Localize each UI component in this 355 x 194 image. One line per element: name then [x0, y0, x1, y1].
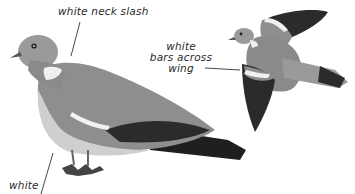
flying-pigeon: [228, 10, 348, 132]
bird-illustration-diagram: white neck slash white bars across wing …: [0, 0, 355, 194]
label-white-neck-slash: white neck slash: [58, 6, 149, 17]
neck-leader-line: [71, 22, 80, 56]
pigeon-illustrations: [0, 0, 355, 194]
label-line: wing: [148, 63, 214, 74]
label-white-bars-across-wing: white bars across wing: [148, 41, 214, 74]
label-white-belly: white: [9, 180, 39, 191]
bottom-leader-line: [41, 153, 53, 194]
